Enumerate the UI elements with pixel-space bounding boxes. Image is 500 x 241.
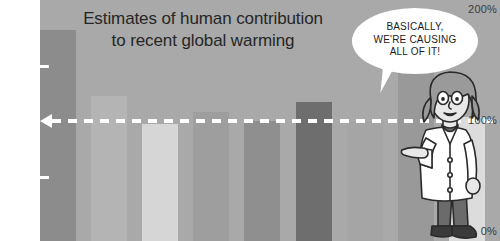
chart-title: Estimates of human contribution to recen… — [58, 8, 348, 52]
y-axis-tick-150 — [40, 65, 49, 68]
chart-screenshot: 200% 100% 0% Estimates of human contribu… — [0, 0, 500, 241]
bar-4 — [193, 112, 229, 241]
bar-1 — [40, 30, 76, 241]
y-axis-panel — [0, 0, 40, 241]
speech-bubble-line-2: WE'RE CAUSING — [352, 34, 478, 47]
bar-7 — [347, 121, 383, 241]
reference-line-arrowhead — [40, 114, 52, 128]
bar-5 — [244, 121, 280, 241]
y-axis-label-200: 200% — [468, 3, 497, 15]
speech-bubble: BASICALLY, WE'RE CAUSING ALL OF IT! — [352, 8, 478, 74]
chart-title-line-1: Estimates of human contribution — [83, 9, 323, 28]
speech-bubble-line-3: ALL OF IT! — [352, 46, 478, 59]
speech-bubble-text: BASICALLY, WE'RE CAUSING ALL OF IT! — [352, 21, 478, 59]
speech-bubble-line-1: BASICALLY, — [352, 21, 478, 34]
bar-3 — [142, 124, 178, 241]
bar-6 — [296, 102, 332, 241]
chart-title-line-2: to recent global warming — [58, 30, 348, 52]
y-axis-tick-50 — [40, 176, 49, 179]
scientist-character — [398, 68, 500, 241]
